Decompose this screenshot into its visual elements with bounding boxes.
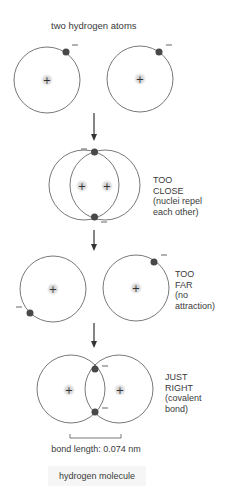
nucleus-plus-icon: +: [78, 181, 86, 192]
stage-just-right: + +: [37, 355, 153, 423]
nucleus-plus-icon: +: [65, 385, 73, 396]
label-line: (nuclei repel: [153, 196, 202, 207]
electron-icon: [91, 214, 98, 221]
electron-icon: [27, 310, 34, 317]
nucleus-plus-icon: +: [43, 75, 51, 86]
arrow-down-icon: [91, 230, 97, 251]
nucleus-plus-icon: +: [103, 181, 111, 192]
arrow-down-icon: [91, 113, 97, 141]
too-far-label: TOO FAR (no attraction): [175, 269, 215, 311]
nucleus-plus-icon: +: [132, 283, 140, 294]
stage-too-close: + +: [49, 149, 140, 223]
stage-two-atoms: + +: [14, 45, 173, 113]
caption: hydrogen molecule: [48, 466, 146, 486]
nucleus-plus-icon: +: [136, 74, 144, 85]
label-line: bond): [165, 404, 202, 415]
nucleus-plus-icon: +: [116, 385, 124, 396]
nucleus-plus-icon: +: [49, 284, 57, 295]
arrow-down-icon: [91, 323, 97, 348]
label-line: (no: [175, 290, 215, 301]
label-line: JUST: [165, 372, 202, 383]
too-close-label: TOO CLOSE (nuclei repel each other): [153, 175, 202, 217]
just-right-label: JUST RIGHT (covalent bond): [165, 372, 202, 414]
electron-icon: [91, 149, 98, 156]
electron-icon: [63, 49, 70, 56]
label-line: attraction): [175, 301, 215, 312]
label-line: RIGHT: [165, 383, 202, 394]
bond-length-label: bond length: 0.074 nm: [46, 444, 146, 454]
label-line: FAR: [175, 280, 215, 291]
stage-too-far: + +: [16, 255, 169, 322]
hydrogen-bond-diagram: + + + + + +: [0, 0, 227, 491]
electron-icon: [92, 366, 99, 373]
label-line: CLOSE: [153, 186, 202, 197]
electron-icon: [156, 49, 163, 56]
electron-icon: [151, 259, 158, 266]
label-line: (covalent: [165, 393, 202, 404]
label-line: TOO: [175, 269, 215, 280]
label-line: each other): [153, 207, 202, 218]
label-line: TOO: [153, 175, 202, 186]
electron-icon: [92, 409, 99, 416]
bond-length-bracket: [70, 434, 121, 438]
diagram-title: two hydrogen atoms: [51, 20, 137, 31]
